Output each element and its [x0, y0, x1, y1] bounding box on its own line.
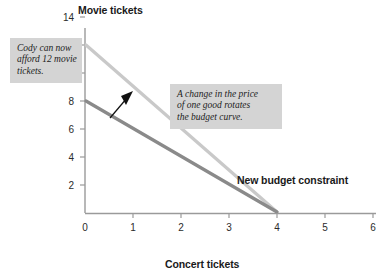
budget-constraint-chart: Movie tickets Concert tickets 14 12 10 8…	[0, 0, 383, 277]
y-tick-label-8: 8	[52, 96, 74, 107]
y-tick-label-14: 14	[52, 12, 74, 23]
x-tick-label-3: 3	[219, 222, 239, 233]
x-tick-label-0: 0	[75, 222, 95, 233]
callout-price-change-rotates: A change in the price of one good rotate…	[170, 84, 282, 129]
callout-left-line-2: afford 12 movie	[17, 54, 75, 65]
x-tick-label-4: 4	[267, 222, 287, 233]
y-tick-label-4: 4	[52, 152, 74, 163]
rotation-arrow-icon	[110, 91, 133, 118]
x-tick-label-1: 1	[123, 222, 143, 233]
y-tick-label-2: 2	[52, 180, 74, 191]
y-axis-title: Movie tickets	[78, 4, 143, 16]
callout-right-line-2: of one good rotates	[177, 100, 275, 111]
x-axis-title: Concert tickets	[165, 258, 239, 270]
x-tick-label-5: 5	[315, 222, 335, 233]
callout-left-line-1: Cody can now	[17, 43, 75, 54]
callout-cody-afford: Cody can now afford 12 movie tickets.	[10, 38, 82, 83]
x-tick-label-6: 6	[363, 222, 383, 233]
callout-left-line-3: tickets.	[17, 66, 75, 77]
callout-right-line-3: the budget curve.	[177, 112, 275, 123]
y-tick-label-6: 6	[52, 124, 74, 135]
callout-right-line-1: A change in the price	[177, 89, 275, 100]
x-tick-label-2: 2	[171, 222, 191, 233]
new-budget-constraint-label: New budget constraint	[237, 174, 348, 186]
